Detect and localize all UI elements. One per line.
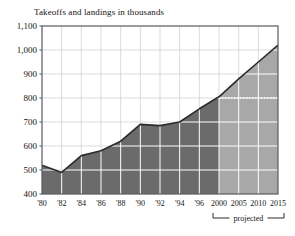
y-tick-label: 900	[24, 69, 38, 79]
y-axis-ticks: 1,1001,000900800700600500400	[17, 21, 42, 199]
y-tick-label: 1,100	[17, 21, 38, 31]
projected-bracket: projected	[213, 213, 284, 223]
chart-container: Takeoffs and landings in thousands 1,100…	[0, 0, 295, 236]
x-tick-label: '88	[116, 199, 125, 208]
x-axis-ticks: '80'82'84'86'88'90'92'94'962000200520102…	[37, 199, 286, 208]
y-tick-label: 700	[24, 117, 38, 127]
y-tick-label: 800	[24, 93, 38, 103]
x-tick-label: '96	[195, 199, 204, 208]
x-tick-label: '86	[96, 199, 105, 208]
x-tick-label: 2015	[270, 199, 286, 208]
x-tick-label: 2005	[231, 199, 247, 208]
projected-label: projected	[234, 214, 264, 223]
x-tick-label: '90	[136, 199, 145, 208]
x-tick-label: '82	[57, 199, 66, 208]
x-tick-label: '94	[175, 199, 184, 208]
y-tick-label: 500	[24, 165, 38, 175]
y-tick-label: 1,000	[17, 45, 38, 55]
gridlines	[42, 26, 278, 194]
x-tick-label: 2000	[211, 199, 227, 208]
x-tick-label: '84	[77, 199, 86, 208]
y-tick-label: 600	[24, 141, 38, 151]
x-tick-label: 2010	[250, 199, 266, 208]
chart-canvas: 1,1001,000900800700600500400 '80'82'84'8…	[0, 0, 295, 236]
y-tick-label: 400	[24, 189, 38, 199]
x-tick-label: '92	[155, 199, 164, 208]
x-tick-label: '80	[37, 199, 46, 208]
